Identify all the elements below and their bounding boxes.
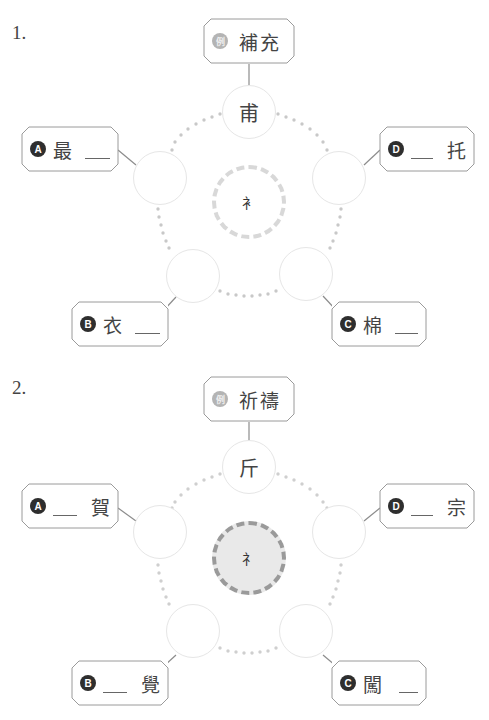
example-box: 例 祈禱 bbox=[204, 377, 294, 421]
item-box-a[interactable]: A 賀 bbox=[22, 484, 118, 528]
badge-d-icon: D bbox=[388, 498, 404, 514]
answer-blank-b[interactable] bbox=[103, 674, 127, 693]
word-wheel-1: 例 補充 甫 衤 A 最 D 托 B 衣 bbox=[0, 0, 489, 360]
answer-circle-d[interactable] bbox=[312, 505, 366, 559]
item-d-after: 宗 bbox=[447, 493, 466, 520]
item-box-d[interactable]: D 宗 bbox=[380, 484, 474, 528]
badge-b-icon: B bbox=[80, 675, 96, 691]
component-circle: 甫 bbox=[222, 85, 276, 139]
example-box: 例 補充 bbox=[204, 19, 294, 63]
component-circle: 斤 bbox=[222, 440, 276, 494]
example-word: 祈禱 bbox=[239, 386, 281, 413]
answer-circle-c[interactable] bbox=[279, 247, 333, 301]
radical-circle: 衤 bbox=[212, 165, 286, 239]
item-a-after: 賀 bbox=[91, 493, 110, 520]
answer-blank-a[interactable] bbox=[85, 140, 110, 159]
answer-circle-d[interactable] bbox=[312, 151, 366, 205]
answer-blank-a[interactable] bbox=[53, 497, 77, 516]
answer-blank-d[interactable] bbox=[411, 497, 433, 516]
answer-circle-c[interactable] bbox=[279, 604, 333, 658]
example-badge-icon: 例 bbox=[212, 391, 228, 407]
answer-blank-d[interactable] bbox=[411, 140, 433, 159]
badge-b-icon: B bbox=[80, 316, 96, 332]
item-box-d[interactable]: D 托 bbox=[380, 127, 474, 171]
item-b-after: 覺 bbox=[141, 670, 160, 697]
answer-circle-a[interactable] bbox=[133, 505, 187, 559]
item-a-before: 最 bbox=[53, 136, 72, 163]
badge-a-icon: A bbox=[30, 141, 46, 157]
answer-blank-c[interactable] bbox=[399, 674, 418, 693]
answer-blank-c[interactable] bbox=[395, 315, 418, 334]
badge-a-icon: A bbox=[30, 498, 46, 514]
item-b-before: 衣 bbox=[103, 311, 122, 338]
answer-blank-b[interactable] bbox=[135, 315, 160, 334]
item-box-b[interactable]: B 覺 bbox=[72, 661, 168, 705]
item-box-c[interactable]: C 棉 bbox=[332, 302, 426, 346]
radical-circle: 礻 bbox=[212, 521, 286, 595]
answer-circle-b[interactable] bbox=[166, 604, 220, 658]
item-c-before: 闖 bbox=[363, 670, 382, 697]
item-box-b[interactable]: B 衣 bbox=[72, 302, 168, 346]
badge-c-icon: C bbox=[340, 316, 356, 332]
word-wheel-2: 例 祈禱 斤 礻 A 賀 D 宗 B 覺 bbox=[0, 358, 489, 718]
example-badge-icon: 例 bbox=[212, 33, 228, 49]
item-box-a[interactable]: A 最 bbox=[22, 127, 118, 171]
badge-c-icon: C bbox=[340, 675, 356, 691]
badge-d-icon: D bbox=[388, 141, 404, 157]
item-d-after: 托 bbox=[447, 136, 466, 163]
example-word: 補充 bbox=[239, 28, 281, 55]
item-c-before: 棉 bbox=[363, 311, 382, 338]
item-box-c[interactable]: C 闖 bbox=[332, 661, 426, 705]
answer-circle-b[interactable] bbox=[166, 249, 220, 303]
answer-circle-a[interactable] bbox=[133, 151, 187, 205]
